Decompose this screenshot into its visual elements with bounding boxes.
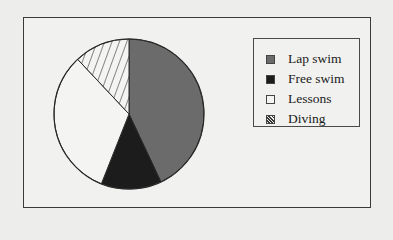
- legend-label: Diving: [288, 112, 326, 126]
- legend-item-free-swim: Free swim: [266, 69, 345, 89]
- legend-item-diving: Diving: [266, 109, 326, 129]
- lap-swim-swatch-icon: [266, 55, 275, 64]
- legend-item-lessons: Lessons: [266, 89, 332, 109]
- legend-label: Free swim: [288, 72, 345, 86]
- pie-slices: [54, 39, 204, 189]
- diving-hatch-swatch-icon: [266, 115, 275, 124]
- legend-label: Lessons: [288, 92, 332, 106]
- chart-legend: Lap swim Free swim Lessons Diving: [253, 38, 360, 127]
- lessons-swatch-icon: [266, 95, 275, 104]
- free-swim-swatch-icon: [266, 75, 275, 84]
- legend-label: Lap swim: [288, 52, 342, 66]
- legend-item-lap-swim: Lap swim: [266, 49, 342, 69]
